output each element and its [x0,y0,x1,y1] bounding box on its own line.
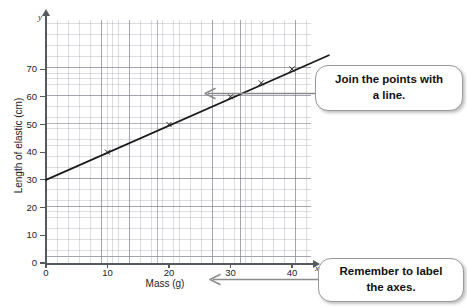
x-tick-label-20: 20 [157,267,181,278]
callout-join-the-points: Join the points with a line. [315,65,463,111]
callout-remember-to-label-axes: Remember to label the axes. [318,258,464,302]
callout-join-line2: a line. [373,89,406,101]
callout-label-line2: the axes. [366,281,415,293]
callout-join-line1: Join the points with [335,73,443,85]
x-axis-title: Mass (g) [120,278,210,289]
x-tick-label-40: 40 [280,267,304,278]
y-axis-title: Length of elastic (cm) [13,66,24,226]
y-tick-label-10: 10 [15,229,37,240]
y-tick-70 [40,69,45,70]
y-tick-20 [40,207,45,208]
y-axis-arrowhead [42,9,50,16]
plot-grid [46,20,311,264]
y-tick-60 [40,96,45,97]
x-tick-label-0: 0 [34,267,58,278]
y-tick-40 [40,152,45,153]
y-tick-0 [40,262,45,263]
y-axis-variable-label: y [38,12,42,22]
y-axis-line [45,14,47,264]
x-tick-label-10: 10 [96,267,120,278]
callout-label-line1: Remember to label [340,265,443,277]
graph-figure: y x 010203040506070 010203040 Length of … [0,0,330,308]
y-tick-10 [40,235,45,236]
y-tick-30 [40,179,45,180]
y-tick-50 [40,124,45,125]
x-axis-line [45,263,317,265]
x-tick-label-30: 30 [219,267,243,278]
